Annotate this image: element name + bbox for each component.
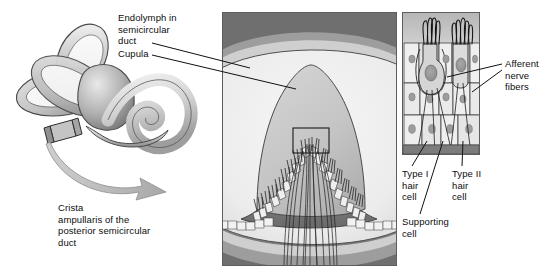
label-endolymph: Endolymph in semicircular duct — [118, 12, 177, 47]
label-type-ii-hair-cell: Type II hair cell — [452, 168, 481, 203]
ampulla-cutaway — [44, 118, 82, 144]
label-type-i-hair-cell: Type I hair cell — [402, 168, 428, 203]
label-cupula: Cupula — [118, 48, 149, 60]
crista-ampullaris-section-panel — [222, 12, 397, 266]
anatomy-figure: Endolymph in semicircular duct Cupula Cr… — [0, 0, 554, 275]
hair-cell-detail-panel — [402, 12, 480, 155]
label-crista-ampullaris: Crista ampullaris of the posterior semic… — [58, 202, 150, 248]
label-supporting-cell: Supporting cell — [402, 216, 449, 239]
label-afferent-nerve-fibers: Afferent nerve fibers — [505, 58, 539, 93]
